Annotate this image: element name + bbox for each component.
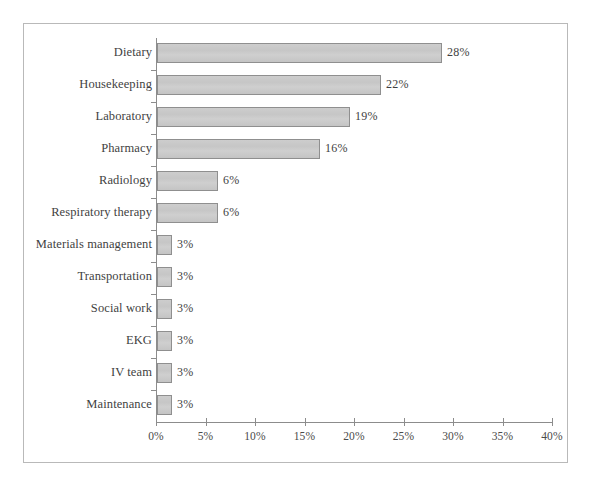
bar-row: Housekeeping22% [24, 70, 569, 102]
bar-row: Transportation3% [24, 262, 569, 294]
x-axis-tick-label: 35% [478, 430, 528, 442]
bar [157, 331, 172, 351]
bar [157, 139, 320, 159]
figure-frame: 0%5%10%15%20%25%30%35%40% Dietary28%Hous… [23, 23, 568, 463]
bar [157, 107, 350, 127]
bar-value-label: 3% [177, 301, 193, 316]
bar-row: Radiology6% [24, 166, 569, 198]
bar-row: Social work3% [24, 294, 569, 326]
bar [157, 235, 172, 255]
bar-category-label: IV team [111, 365, 152, 380]
x-axis-tick-label: 40% [527, 430, 577, 442]
bar [157, 363, 172, 383]
bar-category-label: Radiology [99, 173, 152, 188]
bar-value-label: 3% [177, 397, 193, 412]
bar-category-label: Respiratory therapy [51, 205, 152, 220]
x-axis-tick-label: 0% [131, 430, 181, 442]
bar-value-label: 22% [386, 77, 409, 92]
bar-category-label: Social work [91, 301, 152, 316]
x-axis-tick-label: 20% [329, 430, 379, 442]
bar [157, 267, 172, 287]
bar-category-label: Dietary [114, 45, 152, 60]
bar [157, 203, 218, 223]
bar-row: Materials management3% [24, 230, 569, 262]
bar [157, 395, 172, 415]
bar-row: EKG3% [24, 326, 569, 358]
bar [157, 299, 172, 319]
bar-category-label: Laboratory [95, 109, 152, 124]
bar-category-label: EKG [126, 333, 152, 348]
x-axis-tick-label: 25% [379, 430, 429, 442]
bar-category-label: Pharmacy [101, 141, 152, 156]
bar-chart: 0%5%10%15%20%25%30%35%40% Dietary28%Hous… [24, 24, 569, 464]
bar-row: Maintenance3% [24, 390, 569, 422]
bar-value-label: 3% [177, 269, 193, 284]
x-axis-tick-label: 10% [230, 430, 280, 442]
bar-row: Respiratory therapy6% [24, 198, 569, 230]
x-axis-tick-label: 15% [280, 430, 330, 442]
bar [157, 171, 218, 191]
bar-value-label: 19% [355, 109, 378, 124]
bar-category-label: Housekeeping [79, 77, 152, 92]
bar-row: Laboratory19% [24, 102, 569, 134]
bar-value-label: 3% [177, 333, 193, 348]
bar-row: IV team3% [24, 358, 569, 390]
bar-value-label: 6% [223, 173, 239, 188]
bar-category-label: Materials management [36, 237, 152, 252]
x-axis-tick-label: 5% [181, 430, 231, 442]
bar-value-label: 16% [325, 141, 348, 156]
bar-category-label: Maintenance [86, 397, 152, 412]
bar-row: Dietary28% [24, 38, 569, 70]
bar [157, 75, 381, 95]
bar-row: Pharmacy16% [24, 134, 569, 166]
bar [157, 43, 442, 63]
x-axis-tick-label: 30% [428, 430, 478, 442]
bar-category-label: Transportation [77, 269, 152, 284]
bar-value-label: 28% [447, 45, 470, 60]
bar-value-label: 3% [177, 365, 193, 380]
bar-value-label: 6% [223, 205, 239, 220]
bar-value-label: 3% [177, 237, 193, 252]
